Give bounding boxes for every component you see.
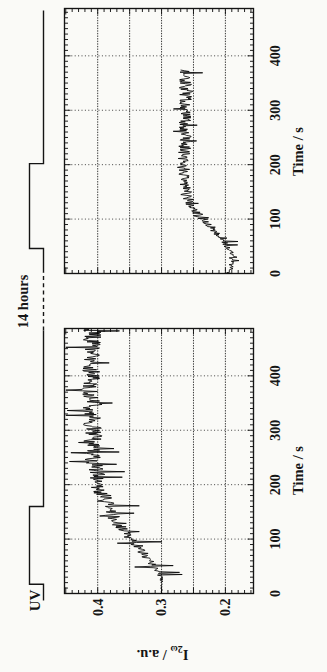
x-tick-label: 0 xyxy=(267,590,282,597)
y-axis-title: I2ω / a.u. xyxy=(136,644,188,663)
x-tick-label: 400 xyxy=(267,45,282,66)
left-plot: Time / s I2ω / a.u. 01002003004000.40.30… xyxy=(64,328,305,662)
x-tick-label: 100 xyxy=(267,528,282,549)
uv-timeline: UV 14 hours xyxy=(14,10,43,611)
x-axis-title-right: Time / s xyxy=(289,126,305,175)
x-tick-label: 300 xyxy=(267,419,282,440)
uv-trace-first-pulse xyxy=(29,330,43,600)
x-tick-label: 0 xyxy=(267,270,282,277)
scanned-figure-page: { "page": { "paper_color": "#fafaf7", "i… xyxy=(0,0,327,672)
pause-duration-label: 14 hours xyxy=(14,274,30,328)
x-tick-label: 400 xyxy=(267,365,282,386)
y-tick-label: 0.2 xyxy=(218,598,233,616)
figure-stage: UV 14 hours Time / s I2ω / a.u. 01002003… xyxy=(0,0,327,672)
right-plot: Time / s 0100200300400 xyxy=(64,8,305,277)
x-tick-label: 200 xyxy=(267,474,282,495)
signal-trace xyxy=(173,70,239,273)
y-tick-label: 0.3 xyxy=(154,598,169,616)
y-axis-title-units: / a.u. xyxy=(136,646,170,662)
uv-label: UV xyxy=(26,589,42,611)
x-tick-label: 200 xyxy=(267,154,282,175)
x-axis-title-left: Time / s xyxy=(289,445,305,494)
figure-svg: UV 14 hours Time / s I2ω / a.u. 01002003… xyxy=(0,0,327,672)
signal-trace xyxy=(65,328,181,593)
uv-trace-second-pulse xyxy=(29,10,43,272)
plot-frame xyxy=(64,8,253,273)
y-axis-title-subscript: 2ω xyxy=(170,644,182,655)
x-tick-label: 100 xyxy=(267,208,282,229)
y-tick-label: 0.4 xyxy=(90,598,105,616)
x-tick-label: 300 xyxy=(267,99,282,120)
